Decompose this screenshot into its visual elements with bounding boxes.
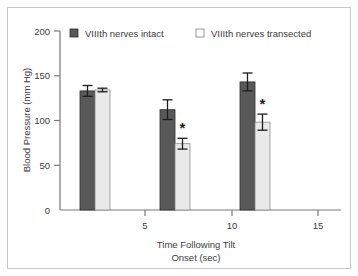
legend: VIIIth nerves intact VIIIth nerves trans… [70, 28, 311, 39]
legend-swatch-filled-square-icon [70, 29, 78, 37]
x-axis-title-line2: Onset (sec) [171, 252, 220, 263]
x-tick-label-5: 5 [142, 220, 147, 231]
y-tick-label-0: 0 [45, 205, 50, 216]
bar-intact-group1 [80, 91, 95, 210]
bar-transected-group2 [175, 144, 190, 210]
bar-intact-group3 [240, 82, 255, 210]
significance-star-group2: * [180, 119, 186, 136]
legend-entry-transected: VIIIth nerves transected [196, 28, 311, 39]
y-axis-title: Blood Pressure (mm Hg) [21, 68, 32, 173]
y-tick-label-50: 50 [39, 160, 50, 171]
legend-entry-intact: VIIIth nerves intact [70, 28, 164, 39]
figure-container: 200 150 100 50 0 5 10 15 Blood Pressure … [0, 0, 358, 276]
x-tick-label-10: 10 [227, 220, 238, 231]
legend-label-intact: VIIIth nerves intact [85, 28, 164, 39]
plot-area: 200 150 100 50 0 5 10 15 Blood Pressure … [0, 0, 358, 276]
x-tick-label-15: 15 [313, 220, 324, 231]
bar-transected-group3 [255, 122, 270, 210]
bar-chart-svg: 200 150 100 50 0 5 10 15 Blood Pressure … [0, 0, 358, 276]
y-tick-label-200: 200 [34, 26, 50, 37]
y-tick-label-150: 150 [34, 70, 50, 81]
bar-transected-group1 [95, 90, 110, 210]
y-tick-label-100: 100 [34, 115, 50, 126]
legend-swatch-open-square-icon [196, 29, 204, 37]
bar-intact-group2 [160, 110, 175, 210]
significance-star-group3: * [260, 95, 266, 112]
x-axis-title-line1: Time Following Tilt [157, 239, 236, 250]
legend-label-transected: VIIIth nerves transected [211, 28, 311, 39]
